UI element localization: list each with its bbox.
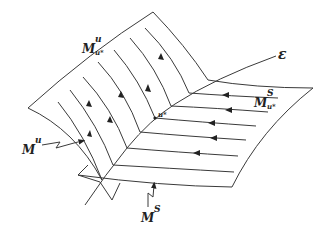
label-base: M xyxy=(254,96,267,110)
stable-flow-line xyxy=(140,132,246,140)
manifold-diagram: M u u* M u M S u* M S ε u* xyxy=(0,0,334,229)
unstable-flow-line xyxy=(145,28,189,93)
unstable-manifold-lower-fold xyxy=(78,165,120,200)
label-base: M xyxy=(141,211,154,225)
label-unstable-manifold-local: M u u* xyxy=(82,40,95,56)
unstable-flow-line xyxy=(83,77,127,148)
label-sup: S xyxy=(154,205,161,214)
label-unstable-manifold: M u xyxy=(22,141,35,157)
label-sup: u xyxy=(35,136,42,145)
label-sub: u* xyxy=(267,103,276,110)
label-u-star: u* xyxy=(158,111,167,118)
unstable-flow-line xyxy=(114,50,155,118)
equilibrium-curve-epsilon xyxy=(85,56,276,205)
stable-manifold-top-edge xyxy=(208,80,313,88)
diagram-svg xyxy=(0,0,334,229)
stable-flow-line xyxy=(113,165,234,172)
label-sub: u* xyxy=(95,49,104,56)
unstable-flow-line xyxy=(130,38,171,106)
unstable-manifold-top-edge xyxy=(28,12,153,108)
label-epsilon: ε xyxy=(278,47,287,61)
unstable-manifold-pointer xyxy=(42,141,82,148)
stable-flow-line xyxy=(127,148,238,156)
label-sup: S xyxy=(267,89,274,98)
stable-flow-line xyxy=(155,118,256,126)
label-base: M xyxy=(82,42,95,56)
label-base: M xyxy=(22,143,35,157)
equilibrium-point-u-star xyxy=(153,116,156,119)
label-sup: u xyxy=(95,35,102,44)
label-stable-manifold: M S xyxy=(141,209,154,225)
label-stable-manifold-local: M S u* xyxy=(254,94,267,110)
